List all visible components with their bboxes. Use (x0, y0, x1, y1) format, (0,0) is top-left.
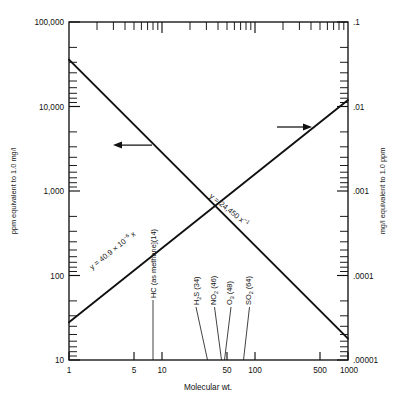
equation-increasing-head: y = 40.9 × 10 (88, 237, 128, 272)
gas-hc-value: (14) (149, 229, 158, 242)
figure-container: y = 40.9 × 10−6 x y = 24,450 x−1 HC (as … (0, 0, 397, 406)
svg-text:y = 24,450 x−1: y = 24,450 x−1 (208, 191, 252, 229)
left-axis-ticks (69, 22, 80, 360)
y2tick-label-p001: .001 (353, 187, 369, 196)
xtick-label-10: 10 (157, 366, 167, 375)
bottom-axis-ticks (69, 352, 348, 360)
svg-text:y = 40.9 × 10−6 x: y = 40.9 × 10−6 x (87, 228, 137, 271)
gas-label-hc: HC (as methane](14) (149, 229, 158, 298)
xtick-label-1: 1 (67, 366, 72, 375)
arrow-to-right-axis (277, 124, 312, 131)
xtick-label-5: 5 (132, 366, 137, 375)
xtick-label-50: 50 (222, 366, 232, 375)
svg-text:NO2 (46): NO2 (46) (209, 276, 219, 305)
equation-increasing-tail: x (127, 229, 137, 240)
gas-no2-name: NO (209, 294, 218, 305)
gas-so2-value: (64) (244, 276, 253, 291)
equation-increasing: y = 40.9 × 10−6 x (87, 228, 137, 271)
gas-o3-value: (48) (225, 281, 234, 296)
xtick-label-100: 100 (248, 366, 262, 375)
svg-text:O3 (48): O3 (48) (225, 281, 235, 305)
ytick-label-10: 10 (55, 356, 65, 365)
left-axis-title-group: ppm equivalent to 1.0 mg/l (9, 147, 18, 234)
bottom-axis-title: Molecular wt. (184, 383, 232, 392)
gas-label-o3: O3 (48) (225, 281, 235, 305)
gas-leaders (153, 300, 250, 360)
ytick-label-1000: 1,000 (44, 187, 65, 196)
y2tick-label-p01: .01 (353, 103, 365, 112)
gas-h2s-value: (34) (192, 277, 201, 292)
gas-label-so2: SO2 (64) (244, 276, 254, 305)
svg-text:H2S (34): H2S (34) (192, 277, 202, 305)
ytick-label-100: 100 (50, 272, 64, 281)
right-axis-title: mg/l equivalent to 1.0 ppm (378, 148, 387, 235)
gas-label-no2: NO2 (46) (209, 276, 219, 305)
ytick-label-10000: 10,000 (39, 103, 64, 112)
xtick-label-500: 500 (313, 366, 327, 375)
xtick-label-1000: 1000 (340, 366, 359, 375)
left-axis-title: ppm equivalent to 1.0 mg/l (9, 147, 18, 234)
gas-label-h2s: H2S (34) (192, 277, 202, 305)
equation-decreasing: y = 24,450 x−1 (208, 191, 252, 229)
y2tick-label-p1: .1 (353, 18, 360, 27)
gas-no2-value: (46) (209, 276, 218, 291)
gas-hc-name: HC (as methane] (149, 242, 158, 298)
loglog-chart: y = 40.9 × 10−6 x y = 24,450 x−1 HC (as … (0, 0, 397, 406)
right-axis-ticks (337, 22, 348, 360)
svg-text:SO2 (64): SO2 (64) (244, 276, 254, 305)
top-axis-ticks (97, 22, 344, 33)
y2tick-label-p0001: .0001 (353, 272, 374, 281)
ytick-label-100000: 100,000 (34, 18, 64, 27)
y2tick-label-p00001: .00001 (353, 356, 378, 365)
right-axis-title-group: mg/l equivalent to 1.0 ppm (378, 148, 387, 235)
plot-frame (69, 22, 348, 360)
svg-text:HC (as methane](14): HC (as methane](14) (149, 229, 158, 298)
gas-so2-name: SO (244, 294, 253, 305)
arrow-to-left-axis (113, 142, 152, 149)
